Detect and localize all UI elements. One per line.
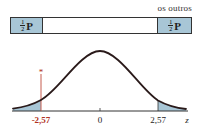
axis-variable: z <box>185 115 189 125</box>
axis-label-neg: -2,57 <box>32 115 51 125</box>
normal-curve-plot: * <box>0 0 201 132</box>
bell-curve <box>13 51 186 109</box>
star-icon: * <box>39 67 44 77</box>
axis-label-pos: 2,57 <box>150 115 166 125</box>
axis-label-zero: 0 <box>98 115 103 125</box>
